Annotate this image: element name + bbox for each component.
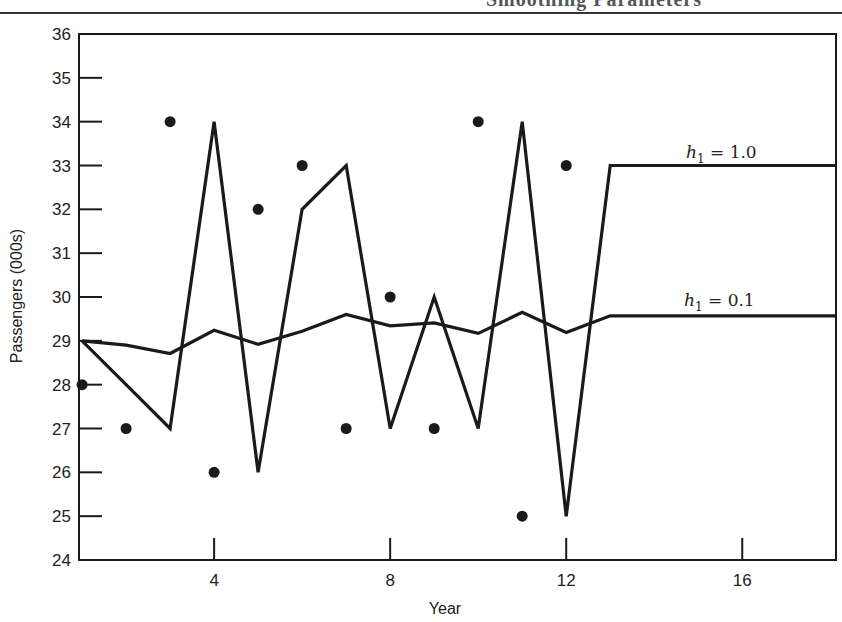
- y-tick-label: 31: [52, 244, 71, 263]
- y-tick-label: 36: [52, 25, 71, 44]
- passengers-chart: 24252627282930313233343536 481216 h1 = 1…: [0, 0, 842, 622]
- actual-data-point: [297, 160, 308, 171]
- x-axis-title: Year: [429, 600, 462, 617]
- actual-data-point: [77, 379, 88, 390]
- x-tick-label: 4: [209, 571, 218, 590]
- actual-data-point: [473, 116, 484, 127]
- y-tick-label: 26: [52, 463, 71, 482]
- actual-data-point: [165, 116, 176, 127]
- actual-data-point: [429, 423, 440, 434]
- actual-data-point: [253, 204, 264, 215]
- series-label-h1-0-1: h1 = 0.1: [684, 290, 755, 314]
- series-labels: h1 = 1.0h1 = 0.1: [684, 142, 757, 314]
- y-tick-label: 34: [52, 113, 71, 132]
- y-tick-label: 30: [52, 288, 71, 307]
- actual-data-point: [209, 467, 220, 478]
- forecast-lines: [82, 122, 836, 517]
- actual-data-point: [341, 423, 352, 434]
- actual-data-points: [77, 116, 572, 522]
- y-tick-label: 24: [52, 551, 71, 570]
- actual-data-point: [561, 160, 572, 171]
- x-tick-label: 16: [733, 571, 752, 590]
- y-axis-ticks: 24252627282930313233343536: [52, 25, 102, 570]
- y-tick-label: 32: [52, 200, 71, 219]
- actual-data-point: [517, 511, 528, 522]
- forecast-line-h1-1-0: [82, 122, 836, 517]
- y-tick-label: 28: [52, 376, 71, 395]
- actual-data-point: [385, 292, 396, 303]
- y-tick-label: 33: [52, 157, 71, 176]
- y-tick-label: 27: [52, 420, 71, 439]
- y-axis-title: Passengers (000s): [8, 229, 25, 363]
- y-tick-label: 35: [52, 69, 71, 88]
- x-tick-label: 8: [385, 571, 394, 590]
- y-tick-label: 29: [52, 332, 71, 351]
- actual-data-point: [121, 423, 132, 434]
- forecast-line-h1-0-1: [82, 312, 836, 353]
- series-label-h1-1-0: h1 = 1.0: [686, 142, 757, 166]
- x-tick-label: 12: [557, 571, 576, 590]
- x-axis-ticks: 481216: [209, 538, 751, 590]
- y-tick-label: 25: [52, 507, 71, 526]
